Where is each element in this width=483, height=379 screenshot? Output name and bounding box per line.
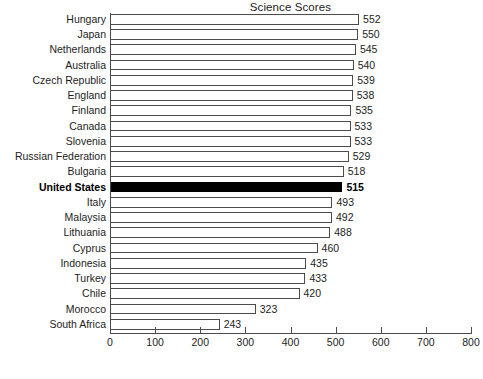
bar-row: Malaysia492 — [0, 210, 483, 225]
value-label: 420 — [304, 286, 322, 301]
category-label: Bulgaria — [0, 164, 106, 179]
bar-row: Czech Republic539 — [0, 73, 483, 88]
bar-row: Italy493 — [0, 195, 483, 210]
value-label: 433 — [309, 271, 327, 286]
value-label: 243 — [224, 317, 242, 332]
value-label: 550 — [362, 27, 380, 42]
x-axis-tick — [336, 327, 337, 333]
category-label: Chile — [0, 286, 106, 301]
bar — [110, 319, 220, 330]
bar-row: Slovenia533 — [0, 134, 483, 149]
value-label: 538 — [357, 88, 375, 103]
category-label: Lithuania — [0, 225, 106, 240]
value-label: 323 — [260, 302, 278, 317]
bar — [110, 166, 344, 177]
category-label: Slovenia — [0, 134, 106, 149]
category-label: Japan — [0, 27, 106, 42]
x-axis-tick — [245, 327, 246, 333]
x-axis-tick — [381, 327, 382, 333]
x-axis-tick — [200, 327, 201, 333]
category-label: South Africa — [0, 317, 106, 332]
x-axis-tick — [426, 327, 427, 333]
bar — [110, 273, 305, 284]
category-label: Czech Republic — [0, 73, 106, 88]
bar-row: Netherlands545 — [0, 42, 483, 57]
x-axis-tick-label: 700 — [417, 336, 435, 349]
bar — [110, 75, 353, 86]
bar-row: United States515 — [0, 180, 483, 195]
value-label: 515 — [346, 180, 364, 195]
category-label: Hungary — [0, 12, 106, 27]
bar — [110, 29, 358, 40]
category-label: Cyprus — [0, 241, 106, 256]
category-label: Netherlands — [0, 42, 106, 57]
bar — [110, 44, 356, 55]
category-label: Canada — [0, 119, 106, 134]
value-label: 535 — [355, 103, 373, 118]
bar-row: Canada533 — [0, 119, 483, 134]
bar — [110, 227, 330, 238]
y-axis-line — [110, 13, 111, 334]
science-scores-bar-chart: Science Scores Hungary552Japan550Netherl… — [0, 0, 483, 379]
x-axis-tick — [155, 327, 156, 333]
x-axis-tick-label: 800 — [462, 336, 480, 349]
category-label: Indonesia — [0, 256, 106, 271]
value-label: 493 — [336, 195, 354, 210]
bar — [110, 243, 318, 254]
bar-row: Hungary552 — [0, 12, 483, 27]
x-axis-tick-label: 400 — [282, 336, 300, 349]
bar-row: Russian Federation529 — [0, 149, 483, 164]
category-label: Turkey — [0, 271, 106, 286]
bar — [110, 182, 342, 193]
value-label: 460 — [322, 241, 340, 256]
x-axis-tick-label: 0 — [107, 336, 113, 349]
bar — [110, 288, 300, 299]
bar — [110, 14, 359, 25]
bar-row: Cyprus460 — [0, 241, 483, 256]
category-label: Italy — [0, 195, 106, 210]
value-label: 552 — [363, 12, 381, 27]
category-label: Finland — [0, 103, 106, 118]
bar — [110, 304, 256, 315]
x-axis-tick-label: 300 — [237, 336, 255, 349]
bar — [110, 197, 332, 208]
bar — [110, 60, 354, 71]
bar-row: Chile420 — [0, 286, 483, 301]
bar-row: Finland535 — [0, 103, 483, 118]
category-label: Malaysia — [0, 210, 106, 225]
bar — [110, 121, 351, 132]
category-label: Australia — [0, 58, 106, 73]
value-label: 540 — [358, 58, 376, 73]
value-label: 435 — [310, 256, 328, 271]
bar-row: Bulgaria518 — [0, 164, 483, 179]
value-label: 533 — [355, 119, 373, 134]
value-label: 518 — [348, 164, 366, 179]
x-axis-tick-label: 500 — [327, 336, 345, 349]
x-axis-tick — [471, 327, 472, 333]
bar — [110, 105, 351, 116]
category-label: England — [0, 88, 106, 103]
bar — [110, 90, 353, 101]
bar — [110, 151, 349, 162]
bar-row: South Africa243 — [0, 317, 483, 332]
bar-row: Turkey433 — [0, 271, 483, 286]
x-axis-tick — [110, 327, 111, 333]
bar — [110, 212, 332, 223]
bar-row: Morocco323 — [0, 302, 483, 317]
value-label: 488 — [334, 225, 352, 240]
x-axis-tick — [291, 327, 292, 333]
category-label: Russian Federation — [0, 149, 106, 164]
x-axis-tick-label: 100 — [146, 336, 164, 349]
x-axis-tick-label: 200 — [191, 336, 209, 349]
value-label: 539 — [357, 73, 375, 88]
x-axis-line — [110, 333, 472, 334]
value-label: 492 — [336, 210, 354, 225]
bar-row: Australia540 — [0, 58, 483, 73]
bar-row: Indonesia435 — [0, 256, 483, 271]
value-label: 533 — [355, 134, 373, 149]
plot-area: Hungary552Japan550Netherlands545Australi… — [0, 0, 483, 379]
bar-row: England538 — [0, 88, 483, 103]
value-label: 545 — [360, 42, 378, 57]
x-axis-tick-label: 600 — [372, 336, 390, 349]
value-label: 529 — [353, 149, 371, 164]
